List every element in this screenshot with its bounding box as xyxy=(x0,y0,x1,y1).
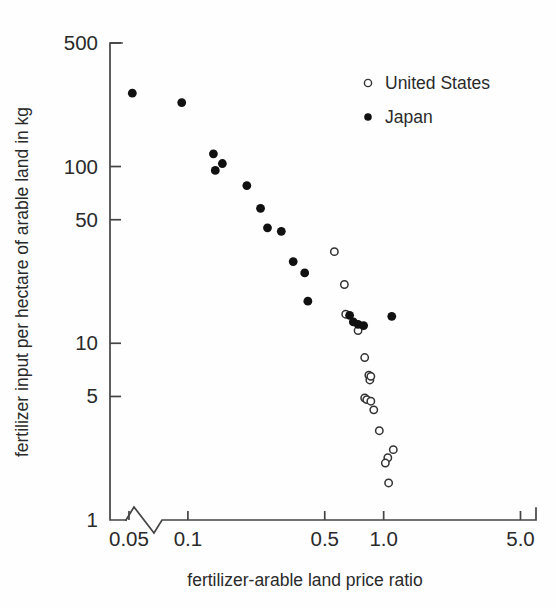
x-axis-title: fertilizer-arable land price ratio xyxy=(187,570,422,590)
scatter-plot-figure: 0.050.10.51.05.0 151050100500 fertilizer… xyxy=(0,0,556,608)
data-point xyxy=(218,159,227,168)
series-japan xyxy=(128,89,396,330)
data-point xyxy=(289,257,298,266)
y-tick-label: 500 xyxy=(64,31,98,54)
data-point xyxy=(370,406,377,413)
y-tick-label: 100 xyxy=(64,155,98,178)
x-tick-label: 0.1 xyxy=(174,527,203,550)
y-axis-title: fertilizer input per hectare of arable l… xyxy=(12,107,32,457)
data-point xyxy=(376,427,383,434)
data-point xyxy=(382,459,389,466)
data-point xyxy=(128,89,137,98)
data-point xyxy=(177,98,186,107)
data-point xyxy=(367,373,374,380)
data-point xyxy=(367,398,374,405)
y-axis-ticks: 151050100500 xyxy=(64,31,121,531)
y-tick-label: 5 xyxy=(87,384,98,407)
x-tick-label: 0.5 xyxy=(310,527,339,550)
data-point xyxy=(359,321,368,330)
x-tick-label: 0.05 xyxy=(109,527,149,550)
data-point xyxy=(385,479,392,486)
data-point xyxy=(256,204,265,213)
y-tick-label: 10 xyxy=(75,331,98,354)
y-axis-line xyxy=(110,43,126,520)
data-point xyxy=(361,354,368,361)
data-point xyxy=(300,269,309,278)
y-tick-label: 1 xyxy=(87,508,98,531)
x-axis-ticks: 0.050.10.51.05.0 xyxy=(109,511,535,550)
legend-entry-united-states: United States xyxy=(364,73,490,93)
x-tick-label: 5.0 xyxy=(506,527,535,550)
chart-canvas: 0.050.10.51.05.0 151050100500 fertilizer… xyxy=(0,0,556,608)
data-points xyxy=(128,89,397,487)
legend: United States Japan xyxy=(364,73,490,127)
y-tick-label: 50 xyxy=(75,208,98,231)
data-point xyxy=(209,149,218,158)
legend-label-united-states: United States xyxy=(385,73,490,93)
data-point xyxy=(242,181,251,190)
data-point xyxy=(331,248,338,255)
filled-circle-icon xyxy=(364,113,372,121)
series-united-states xyxy=(331,248,397,487)
open-circle-icon xyxy=(364,79,371,86)
data-point xyxy=(341,281,348,288)
data-point xyxy=(211,166,220,175)
axes xyxy=(110,43,536,533)
data-point xyxy=(277,227,286,236)
data-point xyxy=(263,223,272,232)
data-point xyxy=(387,312,396,321)
legend-label-japan: Japan xyxy=(385,107,433,127)
data-point xyxy=(303,297,312,306)
data-point xyxy=(390,446,397,453)
x-tick-label: 1.0 xyxy=(369,527,398,550)
legend-entry-japan: Japan xyxy=(364,107,432,127)
